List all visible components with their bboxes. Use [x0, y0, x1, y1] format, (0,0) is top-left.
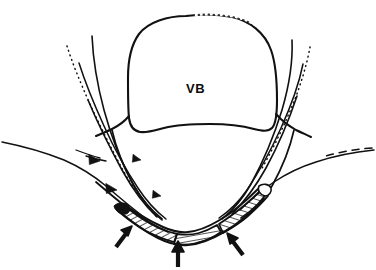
arrowhead-mid-upper — [131, 154, 141, 164]
insertion-knot-left — [114, 203, 130, 214]
arrowhead-mid-lower — [151, 190, 161, 200]
vertebral-body-outline — [128, 15, 277, 133]
skin-contour-group — [2, 142, 374, 232]
figure-canvas — [0, 0, 376, 270]
arrowhead-group — [87, 154, 161, 200]
arrow-left-head — [121, 226, 132, 236]
arrow-left — [116, 226, 132, 247]
skin-contour-right-dashes — [326, 148, 372, 156]
anatomical-figure: VB — [0, 0, 376, 270]
insertion-knot-right — [258, 184, 271, 196]
hatched-trough-center — [174, 225, 221, 245]
arrow-right — [227, 233, 243, 255]
arrow-right-head — [227, 233, 238, 244]
arrowhead-left-lower — [104, 183, 117, 195]
vertebral-body-label: VB — [186, 81, 205, 96]
